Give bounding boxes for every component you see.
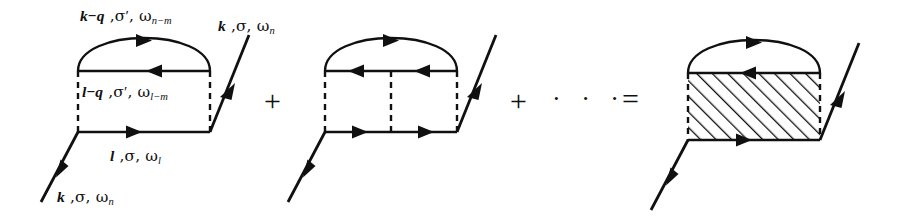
top-arc-arrowhead-icon bbox=[383, 34, 399, 47]
bottom-line-arrowhead-right-icon bbox=[418, 126, 434, 139]
plus-operator-first: + bbox=[264, 86, 281, 116]
top-arc-arrowhead-icon bbox=[746, 36, 762, 49]
outgoing-external-leg bbox=[457, 35, 496, 132]
bottom-line-arrowhead-icon bbox=[126, 126, 142, 139]
label-bottom-line: l ,σ, ωl bbox=[110, 148, 161, 166]
middle-line-arrowhead-icon bbox=[146, 65, 162, 78]
second-order-ladder-diagram bbox=[288, 34, 496, 202]
label-incoming-leg: k ,σ, ωn bbox=[57, 189, 114, 207]
first-order-ladder-diagram bbox=[41, 34, 249, 202]
label-outgoing-leg: k ,σ, ωn bbox=[218, 18, 275, 36]
label-top-arc-line: k−q ,σ′, ωn−m bbox=[80, 8, 172, 26]
label-middle-line: l−q ,σ′, ωl−m bbox=[82, 84, 168, 102]
plus-operator-second: + bbox=[510, 86, 527, 116]
top-arc-arrowhead-icon bbox=[136, 34, 152, 47]
middle-line-arrowhead-right-icon bbox=[414, 65, 430, 78]
outgoing-external-leg bbox=[210, 35, 249, 132]
hatched-vertex-block bbox=[688, 73, 820, 140]
bottom-line-arrowhead-left-icon bbox=[352, 126, 368, 139]
diagram-canvas bbox=[0, 0, 904, 223]
middle-line-arrowhead-left-icon bbox=[348, 65, 364, 78]
resummed-vertex-diagram bbox=[651, 36, 859, 210]
feynman-diagram-figure: k−q ,σ′, ωn−m k ,σ, ωn l−q ,σ′, ωl−m l ,… bbox=[0, 0, 904, 223]
ellipsis-operator: · · · bbox=[552, 86, 626, 112]
equals-operator: = bbox=[622, 84, 639, 114]
outgoing-external-leg bbox=[820, 43, 859, 140]
